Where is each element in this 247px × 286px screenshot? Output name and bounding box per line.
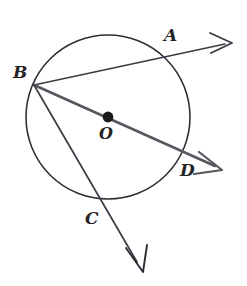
ray-ba-arrowhead (210, 33, 232, 53)
point-label-b: B (13, 64, 27, 81)
point-label-d: D (180, 162, 195, 179)
center-point-dot (103, 112, 114, 123)
ray-ba (34, 44, 225, 85)
circle-diagram-canvas (0, 0, 247, 286)
geometry-diagram: A B C D O (0, 0, 247, 286)
point-label-c: C (85, 210, 99, 227)
center-label-o: O (99, 126, 113, 142)
point-label-a: A (164, 27, 177, 44)
